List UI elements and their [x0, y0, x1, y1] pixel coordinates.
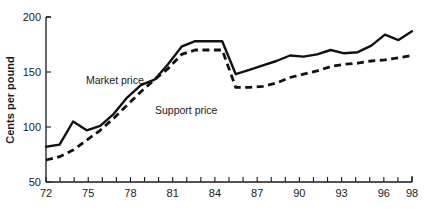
- y-tick-label-150: 150: [23, 66, 41, 78]
- x-axis-ticks: [46, 177, 412, 182]
- x-tick-label-96: 96: [378, 187, 390, 199]
- support-price-series: [46, 50, 412, 160]
- x-tick-label-72: 72: [40, 187, 52, 199]
- x-tick-label-84: 84: [209, 187, 221, 199]
- price-line-chart: 200 150 100 50 Cents per pound 727578818…: [0, 0, 439, 218]
- y-tick-label-100: 100: [23, 121, 41, 133]
- support-price-annotation: Support price: [155, 104, 218, 116]
- x-tick-label-78: 78: [124, 187, 136, 199]
- x-axis: 72757881848790939698: [40, 176, 418, 199]
- y-axis-ticks: [46, 17, 51, 182]
- x-tick-label-90: 90: [293, 187, 305, 199]
- x-tick-label-87: 87: [251, 187, 263, 199]
- market-price-annotation: Market price: [86, 74, 144, 86]
- x-tick-label-93: 93: [335, 187, 347, 199]
- y-tick-label-200: 200: [23, 11, 41, 23]
- y-axis-title: Cents per pound: [4, 56, 16, 143]
- x-axis-tick-labels: 72757881848790939698: [40, 187, 418, 199]
- x-tick-label-75: 75: [82, 187, 94, 199]
- chart-plot-area: 200 150 100 50 Cents per pound 727578818…: [0, 0, 439, 218]
- x-tick-label-98: 98: [406, 187, 418, 199]
- market-price-label: Market price: [86, 74, 144, 86]
- support-price-label: Support price: [155, 104, 218, 116]
- x-tick-label-81: 81: [167, 187, 179, 199]
- y-axis: 200 150 100 50 Cents per pound: [4, 11, 51, 188]
